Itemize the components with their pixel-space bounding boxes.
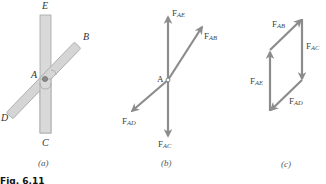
force-label-c-ad: FAD	[289, 97, 303, 107]
force-label-ab: FAB	[204, 32, 217, 42]
point-label-c: C	[42, 138, 49, 148]
force-label-ac: FAC	[158, 140, 171, 150]
arrow-f-ad	[132, 80, 168, 111]
panel-a-label: (a)	[38, 159, 49, 168]
force-label-ad: FAD	[122, 117, 136, 127]
point-label-a: A	[31, 70, 37, 80]
panel-b-forces	[132, 17, 202, 136]
force-label-c-ac: FAC	[306, 42, 319, 52]
point-label-d: D	[1, 113, 8, 123]
panel-c-label: (c)	[281, 160, 291, 169]
panel-b-label: (b)	[161, 159, 172, 168]
pin-b	[166, 78, 170, 82]
pin-a	[42, 76, 47, 81]
force-label-c-ab: FAB	[272, 20, 285, 30]
panel-a-members	[6, 15, 81, 133]
point-label-b: B	[83, 32, 89, 42]
force-label-ae: FAE	[172, 9, 185, 19]
arrow-f-ab	[168, 27, 202, 80]
point-label-a-b: A	[157, 75, 164, 84]
force-label-c-ae: FAE	[250, 77, 263, 87]
figure-caption: Fig. 6.11	[0, 177, 44, 184]
point-label-e: E	[42, 1, 48, 11]
